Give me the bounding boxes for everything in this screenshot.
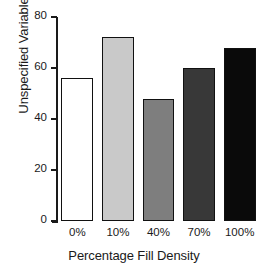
x-tick-label: 70%	[179, 225, 220, 239]
y-tick-label: 60	[34, 60, 47, 72]
y-tick: 60	[51, 67, 57, 69]
y-tick-label: 0	[41, 213, 47, 225]
x-axis-tick-labels: 0%10%40%70%100%	[57, 225, 260, 243]
y-tick: 80	[51, 16, 57, 18]
x-tick-label: 100%	[219, 225, 260, 239]
y-tick-label: 20	[34, 162, 47, 174]
bars-group	[57, 17, 260, 221]
y-tick: 40	[51, 118, 57, 120]
y-tick-label: 40	[34, 111, 47, 123]
x-tick-label: 40%	[138, 225, 179, 239]
bar-chart: Unspecified Variable 020406080 0%10%40%7…	[0, 0, 268, 275]
bar	[143, 99, 175, 221]
plot-area: 020406080 0%10%40%70%100%	[57, 17, 260, 221]
bar	[224, 48, 256, 221]
bar	[183, 68, 215, 221]
x-tick-label: 10%	[98, 225, 139, 239]
x-tick-label: 0%	[57, 225, 98, 239]
y-tick-label: 80	[34, 9, 47, 21]
y-tick: 20	[51, 169, 57, 171]
bar	[102, 37, 134, 221]
y-tick: 0	[51, 220, 57, 222]
x-axis-title: Percentage Fill Density	[0, 248, 268, 263]
y-axis-title: Unspecified Variable	[16, 0, 31, 151]
bar	[61, 78, 93, 221]
